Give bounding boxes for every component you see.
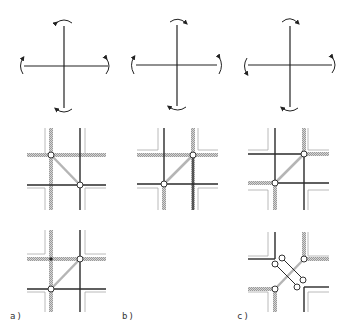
panel-label-a: a)	[10, 311, 23, 321]
rotation-arrow-icon	[56, 20, 72, 23]
panel-label-b: b)	[122, 311, 135, 321]
rotation-arrow-icon	[282, 19, 298, 23]
junction-node	[48, 286, 54, 292]
rotation-cross-b	[132, 19, 222, 110]
junction-node	[272, 286, 278, 292]
rotation-cross-a	[21, 20, 110, 112]
rotation-arrow-icon	[56, 109, 72, 112]
diagram-canvas	[0, 0, 351, 333]
junction-node	[77, 182, 83, 188]
junction-grid-a-middle	[27, 128, 106, 210]
junction-grid-c-middle	[248, 128, 329, 210]
junction-node	[301, 151, 307, 157]
rotation-arrow-icon	[169, 107, 186, 110]
rotation-arrow-icon	[132, 57, 135, 74]
junction-node	[300, 277, 306, 283]
rotation-arrow-icon	[282, 108, 298, 111]
junction-node	[301, 256, 307, 262]
rotation-arrow-icon	[332, 57, 335, 73]
rotation-cross-c	[245, 19, 336, 111]
junction-node	[294, 284, 300, 290]
junction-grid-c-bottom	[248, 232, 329, 312]
panel-label-c: c)	[237, 311, 250, 321]
rotation-arrow-icon	[245, 58, 248, 74]
junction-node	[272, 261, 278, 267]
junction-node	[190, 152, 196, 158]
crossing-dot	[49, 257, 53, 261]
junction-node	[279, 255, 285, 261]
junction-node	[48, 152, 54, 158]
junction-grid-a-bottom	[27, 230, 106, 312]
rotation-arrow-icon	[21, 58, 24, 74]
rotation-arrow-icon	[170, 19, 186, 23]
junction-node	[272, 180, 278, 186]
junction-node	[161, 181, 167, 187]
junction-grid-b-middle	[137, 128, 218, 210]
junction-node	[77, 256, 83, 262]
rotation-arrow-icon	[219, 57, 222, 74]
